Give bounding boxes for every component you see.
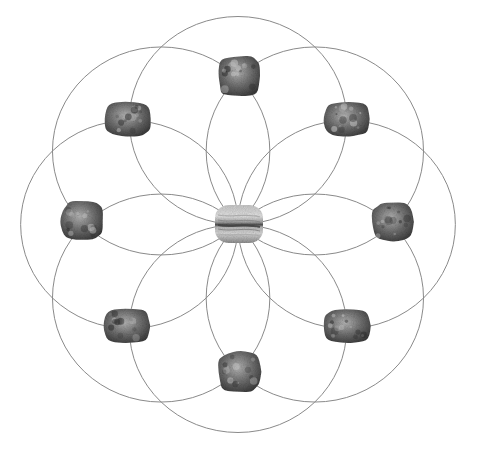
stone-texture: [65, 221, 73, 229]
stone-texture: [388, 207, 391, 210]
stone-texture: [242, 63, 245, 66]
stone-w: Rough stone (west): [60, 201, 103, 240]
stone-texture: [342, 314, 345, 317]
stone-texture: [117, 333, 123, 339]
stone-texture: [245, 367, 251, 373]
stone-texture: [114, 319, 120, 325]
stone-texture: [227, 377, 233, 383]
stone-texture: [353, 334, 358, 339]
stone-texture: [331, 334, 335, 338]
agate-body: [215, 205, 263, 243]
stone-group: Rough stone (north)Rough stone (north-ea…: [60, 56, 414, 392]
pattern-circle: [129, 225, 346, 433]
stone-texture: [360, 332, 367, 339]
stone-texture: [68, 231, 73, 236]
stone-texture: [345, 320, 348, 323]
stone-texture: [76, 212, 79, 215]
stone-texture: [82, 213, 87, 218]
stone-texture: [355, 330, 360, 335]
stone-texture: [381, 225, 384, 228]
stone-texture: [403, 215, 411, 223]
stone-texture: [249, 84, 255, 90]
stone-texture: [132, 327, 136, 331]
stone-texture: [129, 318, 136, 325]
stone-texture: [393, 233, 396, 236]
stone-ne: Rough stone (north-east): [324, 102, 370, 137]
stone-n: Rough stone (north): [219, 56, 260, 96]
stone-texture: [334, 325, 340, 331]
stone-texture: [66, 228, 70, 232]
stone-texture: [338, 127, 344, 133]
pattern-circle: [21, 121, 238, 329]
stone-texture: [90, 227, 97, 234]
stone-texture: [335, 106, 337, 108]
stone-e: Rough stone (east): [372, 203, 414, 242]
stone-texture: [251, 358, 255, 362]
stone-texture: [359, 112, 361, 114]
stone-texture: [81, 225, 88, 232]
stone-texture: [131, 106, 138, 113]
stone-texture: [118, 120, 124, 126]
stone-nw: Rough stone (north-west): [105, 102, 151, 137]
stone-se: Rough stone (south-east): [324, 309, 371, 343]
stone-texture: [397, 210, 400, 213]
stone-texture: [130, 128, 136, 134]
stone-texture: [232, 381, 238, 387]
stone-texture: [328, 323, 333, 328]
pattern-circle: [129, 17, 346, 225]
stone-texture: [384, 216, 391, 223]
stone-texture: [109, 312, 112, 315]
stone-center-agate: Banded agate (center stone): [215, 205, 263, 243]
stone-texture: [251, 64, 256, 69]
stone-sw: Rough stone (south-west): [104, 309, 151, 343]
stone-texture: [139, 111, 142, 114]
stone-texture: [357, 126, 360, 129]
stone-texture: [138, 119, 142, 123]
stone-texture: [222, 370, 227, 375]
stone-texture: [112, 311, 118, 317]
stone-texture: [117, 128, 121, 132]
stone-texture: [230, 355, 235, 360]
stone-texture: [339, 116, 346, 123]
stone-texture: [221, 85, 229, 93]
stone-texture: [375, 233, 380, 238]
flower-of-life-pattern: Rough stone (north)Rough stone (north-ea…: [0, 0, 479, 454]
stone-texture: [125, 113, 132, 120]
stone-texture: [231, 72, 236, 77]
stone-texture: [233, 363, 240, 370]
stone-texture: [350, 326, 352, 328]
stone-texture: [124, 119, 127, 122]
stone-texture: [332, 314, 336, 318]
stone-texture: [66, 209, 73, 216]
stone-texture: [235, 65, 241, 71]
stone-texture: [87, 210, 89, 212]
stone-texture: [115, 115, 119, 119]
stone-texture: [236, 72, 240, 76]
stone-body: [60, 201, 103, 240]
pattern-circle: [238, 121, 455, 329]
stone-texture: [404, 223, 408, 227]
stone-texture: [349, 106, 353, 110]
stone-texture: [132, 334, 139, 341]
stone-texture: [108, 325, 114, 331]
stone-s: Rough stone (south): [218, 351, 261, 392]
stone-texture: [381, 220, 385, 224]
stone-texture: [376, 221, 380, 225]
stone-texture: [331, 126, 337, 132]
stone-texture: [349, 114, 357, 122]
stone-texture: [339, 105, 346, 112]
stone-texture: [222, 69, 226, 73]
stone-texture: [250, 377, 258, 385]
stone-texture: [399, 220, 402, 223]
stone-texture: [335, 113, 337, 115]
